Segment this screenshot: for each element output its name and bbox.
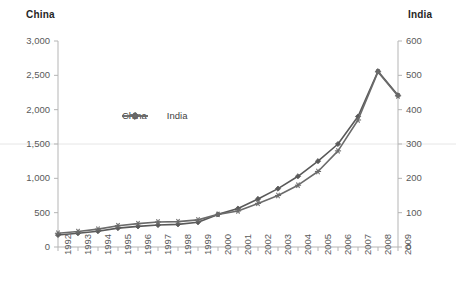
x-axis-tick-label: 2003 <box>282 234 293 255</box>
left-axis-tick-label: 3,000 <box>10 35 50 46</box>
x-axis-tick-label: 2001 <box>242 234 253 255</box>
x-axis-tick-label: 1992 <box>62 234 73 255</box>
right-axis-tick-label: 400 <box>406 104 446 115</box>
left-axis-tick-label: 500 <box>10 207 50 218</box>
legend-item-india[interactable]: India <box>167 110 188 121</box>
x-axis-tick-label: 1994 <box>102 234 113 255</box>
legend-swatch-asterisk-icon <box>122 110 148 122</box>
right-axis-tick-label: 200 <box>406 172 446 183</box>
x-axis-tick-label: 1993 <box>82 234 93 255</box>
x-axis-tick-label: 2002 <box>262 234 273 255</box>
series-line-india <box>58 72 398 233</box>
left-axis-tick-label: 2,500 <box>10 69 50 80</box>
left-axis-tick-label: 1,500 <box>10 138 50 149</box>
right-axis-tick-label: 300 <box>406 138 446 149</box>
x-axis-tick-label: 2005 <box>322 234 333 255</box>
series-line-china <box>58 71 398 235</box>
x-axis-tick-label: 1997 <box>162 234 173 255</box>
x-axis-tick-label: 2007 <box>362 234 373 255</box>
x-axis-tick-label: 2004 <box>302 234 313 255</box>
x-axis-tick-label: 2000 <box>222 234 233 255</box>
legend-label: India <box>167 110 188 121</box>
left-axis-tick-label: 1,000 <box>10 172 50 183</box>
left-axis-tick-label: 0 <box>10 241 50 252</box>
right-axis-tick-label: 500 <box>406 69 446 80</box>
x-axis-tick-label: 2006 <box>342 234 353 255</box>
right-axis-tick-label: 100 <box>406 207 446 218</box>
x-axis-tick-label: 2009 <box>402 234 413 255</box>
x-axis-tick-label: 1998 <box>182 234 193 255</box>
x-axis-tick-label: 2008 <box>382 234 393 255</box>
x-axis-tick-label: 1999 <box>202 234 213 255</box>
data-point-marker-diamond <box>155 222 160 227</box>
chart-container: China India 05001,0001,5002,0002,5003,00… <box>0 0 456 294</box>
left-axis-tick-label: 2,000 <box>10 104 50 115</box>
x-axis-tick-label: 1996 <box>142 234 153 255</box>
right-axis-tick-label: 600 <box>406 35 446 46</box>
chart-legend: ChinaIndia <box>122 110 187 121</box>
x-axis-tick-label: 1995 <box>122 234 133 255</box>
